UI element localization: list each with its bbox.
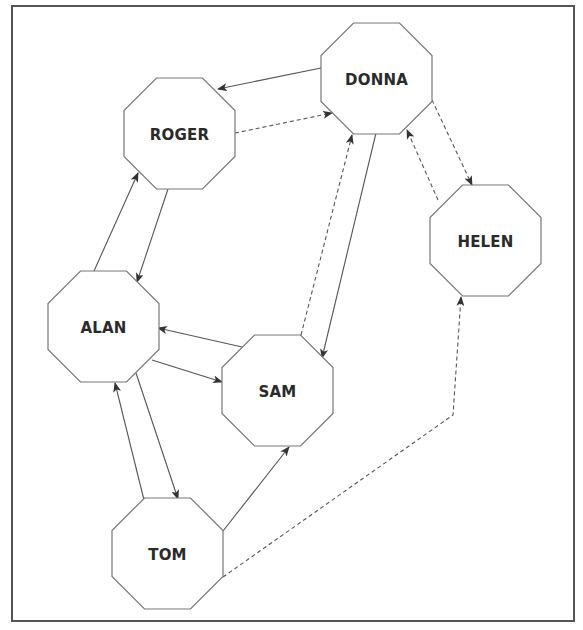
node-roger <box>124 78 235 189</box>
node-donna <box>321 23 432 134</box>
edge-sam-to-alan <box>158 328 242 347</box>
edge-donna-to-roger <box>218 68 321 89</box>
nodes-layer <box>48 23 541 609</box>
edge-donna-to-helen <box>432 100 472 185</box>
node-sam <box>222 335 333 446</box>
edge-donna-to-sam <box>322 133 376 358</box>
edge-alan-to-sam <box>152 360 222 382</box>
node-tom <box>112 498 223 609</box>
edge-roger-to-donna <box>235 113 332 133</box>
node-helen <box>430 185 541 296</box>
edge-tom-to-alan <box>115 383 144 500</box>
edge-roger-to-alan <box>137 189 168 282</box>
edge-alan-to-roger <box>94 173 138 271</box>
node-alan <box>48 271 159 382</box>
edge-helen-to-donna <box>407 130 438 200</box>
edge-tom-to-sam <box>223 447 289 531</box>
network-diagram <box>0 0 583 630</box>
edge-alan-to-tom <box>136 373 178 499</box>
edge-sam-to-donna <box>301 135 352 335</box>
